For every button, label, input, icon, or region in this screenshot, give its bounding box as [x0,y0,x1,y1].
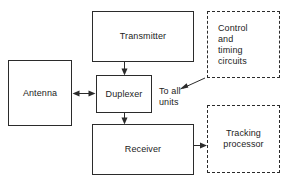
radar-block-diagram: Antenna Transmitter Duplexer Receiver Co… [0,0,291,182]
edge-receiver-to-tracking-processor [194,143,207,149]
node-receiver[interactable]: Receiver [92,124,194,175]
node-receiver-label: Receiver [123,144,163,155]
node-control-timing-circuits[interactable]: Control and timing circuits [207,11,280,78]
edge-control-to-all-units [180,78,206,90]
node-antenna-label: Antenna [21,88,59,99]
edge-antenna-to-duplexer [73,91,96,97]
node-control-timing-circuits-label: Control and timing circuits [208,23,250,67]
node-duplexer-label: Duplexer [104,89,145,100]
node-transmitter[interactable]: Transmitter [92,11,194,62]
edge-duplexer-to-receiver [122,113,128,125]
node-antenna[interactable]: Antenna [8,60,72,126]
node-tracking-processor-label: Tracking processor [221,128,265,150]
node-transmitter-label: Transmitter [118,31,168,42]
edge-transmitter-to-duplexer [122,62,128,76]
node-tracking-processor[interactable]: Tracking processor [207,105,280,173]
node-duplexer[interactable]: Duplexer [96,75,152,113]
label-to-all-units: To all units [159,86,181,108]
